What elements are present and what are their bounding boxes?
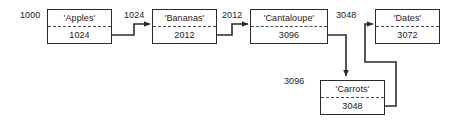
address-label-cantaloupe: 2012	[222, 10, 242, 20]
node-apples-name: 'Apples'	[48, 10, 111, 27]
address-label-dates: 3048	[336, 10, 356, 20]
connector-cantaloupe-to-carrots	[328, 35, 346, 76]
connector-bananas-to-cantaloupe	[217, 24, 248, 35]
linked-list-diagram: 1000 1024 2012 3048 3096 'Apples' 1024 '…	[0, 0, 450, 127]
address-label-bananas: 1024	[124, 10, 144, 20]
node-bananas-name: 'Bananas'	[153, 10, 216, 27]
connector-apples-to-bananas	[112, 24, 150, 35]
node-carrots-name: 'Carrots'	[321, 81, 384, 98]
node-carrots-value: 3048	[321, 98, 384, 114]
node-carrots: 'Carrots' 3048	[320, 80, 385, 115]
node-cantaloupe-name: 'Cantaloupe'	[251, 10, 327, 27]
address-label-carrots: 3096	[284, 76, 304, 86]
node-bananas: 'Bananas' 2012	[152, 9, 217, 44]
node-apples: 'Apples' 1024	[47, 9, 112, 44]
node-dates-value: 3072	[376, 27, 439, 43]
node-apples-value: 1024	[48, 27, 111, 43]
node-dates: 'Dates' 3072	[375, 9, 440, 44]
node-cantaloupe-value: 3096	[251, 27, 327, 43]
node-bananas-value: 2012	[153, 27, 216, 43]
node-cantaloupe: 'Cantaloupe' 3096	[250, 9, 328, 44]
address-label-apples: 1000	[20, 10, 40, 20]
node-dates-name: 'Dates'	[376, 10, 439, 27]
